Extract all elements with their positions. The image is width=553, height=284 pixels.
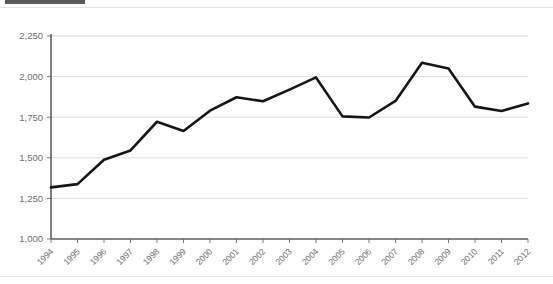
x-axis-tick-label: 2011: [486, 246, 506, 266]
x-axis-tick-label: 2000: [194, 246, 215, 267]
x-axis-tick-label: 1995: [61, 246, 82, 267]
data-series-line: [51, 63, 528, 188]
y-axis-tick-label: 1,750: [19, 112, 43, 123]
y-axis-tick-label: 1,000: [19, 233, 43, 244]
x-axis-tick-label: 2003: [273, 246, 294, 267]
gridline-group: [51, 36, 528, 198]
x-axis-tick-label: 2001: [220, 246, 241, 267]
x-axis-tick-label: 2012: [512, 246, 533, 267]
x-axis-tick-label: 2010: [459, 246, 480, 267]
x-axis-tick-label: 2004: [300, 246, 321, 267]
x-axis-tick-label: 2009: [432, 246, 453, 267]
y-axis-tick-label-group: 1,0001,2501,5001,7502,0002,250: [19, 30, 43, 244]
y-axis-tick-label: 2,250: [19, 30, 43, 41]
line-chart-figure: 1,0001,2501,5001,7502,0002,250 199419951…: [0, 0, 553, 284]
x-axis-tick-label: 1998: [141, 246, 162, 267]
x-axis-tick-label: 2005: [326, 246, 347, 267]
chart-plot-svg: 1,0001,2501,5001,7502,0002,250 199419951…: [0, 0, 553, 284]
x-axis-tick-label-group: 1994199519961997199819992000200120022003…: [35, 246, 533, 267]
x-axis-tick-label: 2008: [406, 246, 427, 267]
x-axis-tick-label: 2002: [247, 246, 268, 267]
y-axis-tick-label: 2,000: [19, 71, 43, 82]
x-axis-tick-label: 1997: [114, 246, 135, 267]
x-axis-tick-label: 1996: [88, 246, 109, 267]
x-axis-tick-label: 1994: [35, 246, 56, 267]
x-axis-tick-label: 2007: [379, 246, 400, 267]
y-axis-tick-label: 1,500: [19, 152, 43, 163]
y-axis-tick-label: 1,250: [19, 193, 43, 204]
x-axis-tick-label: 1999: [167, 246, 188, 267]
x-axis-tick-label: 2006: [353, 246, 374, 267]
